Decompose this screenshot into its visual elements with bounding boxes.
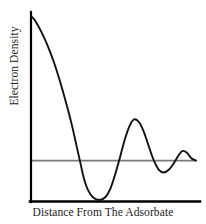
plot-area xyxy=(0,0,206,224)
x-axis-label: Distance From The Adsorbate xyxy=(0,206,206,218)
electron-density-chart-figure: Electron Density Distance From The Adsor… xyxy=(0,0,206,224)
y-axis-label: Electron Density xyxy=(8,6,24,126)
